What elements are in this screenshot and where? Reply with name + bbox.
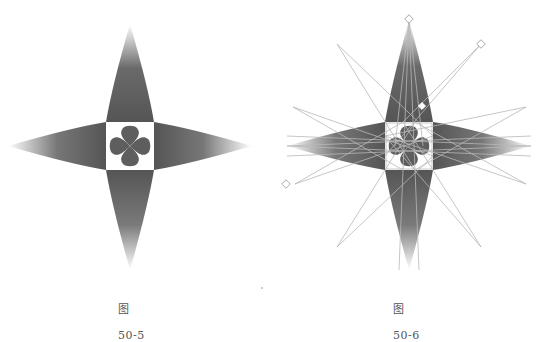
caption-50-5: 图 50-5: [110, 287, 145, 342]
spike-left: [8, 122, 106, 170]
spike-bottom: [106, 170, 154, 270]
stray-dot: [261, 287, 263, 289]
spike-right: [154, 122, 252, 170]
spike-right: [433, 122, 531, 170]
diamond-handle-icon[interactable]: [282, 180, 290, 188]
figure-50-5-star: [8, 24, 252, 270]
caption-prefix: 图: [393, 303, 405, 316]
spike-top: [106, 24, 154, 122]
caption-number: 50-5: [118, 329, 145, 342]
spike-left: [287, 122, 385, 170]
caption-50-6: 图 50-6: [385, 287, 420, 342]
spike-top: [385, 20, 433, 122]
figure-50-6-star: [282, 15, 531, 270]
diamond-handle-icon[interactable]: [405, 15, 413, 23]
spike-bottom: [385, 170, 433, 270]
caption-number: 50-6: [393, 329, 420, 342]
caption-prefix: 图: [118, 303, 130, 316]
